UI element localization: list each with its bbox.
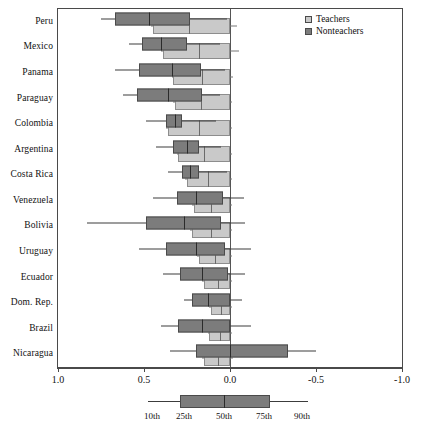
legend-swatch-teachers bbox=[305, 16, 312, 23]
box-iqr bbox=[142, 38, 187, 51]
boxplot-nonteachers bbox=[58, 60, 402, 86]
boxplot-nonteachers bbox=[58, 137, 402, 163]
x-axis-tick bbox=[316, 368, 317, 372]
box-iqr bbox=[192, 294, 230, 307]
category-label: Paraguay bbox=[0, 93, 53, 103]
x-axis-tick-label: 0.0 bbox=[224, 374, 237, 385]
percentile-key-box bbox=[180, 395, 270, 408]
x-axis-tick bbox=[402, 368, 403, 372]
x-axis-tick bbox=[230, 368, 231, 372]
median-line bbox=[161, 38, 162, 51]
median-line bbox=[187, 140, 188, 153]
median-line bbox=[202, 268, 203, 281]
percentile-label-25th: 25th bbox=[176, 411, 192, 421]
boxplot-row[interactable] bbox=[58, 162, 402, 188]
boxplot-row[interactable] bbox=[58, 111, 402, 137]
x-axis-tick bbox=[58, 368, 59, 372]
boxplot-nonteachers bbox=[58, 162, 402, 188]
boxplot-nonteachers bbox=[58, 188, 402, 214]
median-line bbox=[184, 217, 185, 230]
box-iqr bbox=[139, 63, 201, 76]
legend-label-teachers: Teachers bbox=[316, 13, 350, 25]
median-line bbox=[202, 319, 203, 332]
x-axis-tick-label: 1.0 bbox=[52, 374, 65, 385]
legend-item-teachers[interactable]: Teachers bbox=[305, 13, 363, 25]
box-iqr bbox=[115, 12, 191, 25]
legend: Teachers Nonteachers bbox=[305, 13, 363, 37]
boxplot-nonteachers bbox=[58, 341, 402, 367]
category-label: Ecuador bbox=[0, 272, 53, 282]
median-line bbox=[168, 89, 169, 102]
median-line bbox=[175, 115, 176, 128]
boxplot-nonteachers bbox=[58, 86, 402, 112]
boxplot-row[interactable] bbox=[58, 265, 402, 291]
x-axis-tick-label: 0.5 bbox=[138, 374, 151, 385]
boxplot-nonteachers bbox=[58, 290, 402, 316]
category-label: Venezuela bbox=[0, 195, 53, 205]
median-line bbox=[149, 12, 150, 25]
category-label: Mexico bbox=[0, 41, 53, 51]
boxplot-nonteachers bbox=[58, 316, 402, 342]
category-label: Peru bbox=[0, 16, 53, 26]
percentile-key: 10th 25th 50th 75th 90th bbox=[148, 392, 308, 426]
category-label: Bolivia bbox=[0, 220, 53, 230]
boxplot-row[interactable] bbox=[58, 290, 402, 316]
median-line bbox=[196, 191, 197, 204]
box-iqr bbox=[178, 319, 230, 332]
percentile-key-median bbox=[224, 395, 225, 408]
boxplot-row[interactable] bbox=[58, 86, 402, 112]
median-line bbox=[196, 242, 197, 255]
plot-area bbox=[57, 8, 403, 368]
percentile-label-50th: 50th bbox=[216, 411, 232, 421]
x-axis-tick-label: -0.5 bbox=[308, 374, 324, 385]
category-axis-labels: PeruMexicoPanamaParaguayColombiaArgentin… bbox=[0, 8, 53, 368]
median-line bbox=[230, 345, 231, 358]
percentile-label-90th: 90th bbox=[294, 411, 310, 421]
box-iqr bbox=[196, 345, 289, 358]
x-axis-tick-label: -1.0 bbox=[394, 374, 410, 385]
legend-label-nonteachers: Nonteachers bbox=[316, 25, 363, 37]
boxplot-row[interactable] bbox=[58, 60, 402, 86]
legend-swatch-nonteachers bbox=[305, 28, 312, 35]
boxplot-nonteachers bbox=[58, 35, 402, 61]
category-label: Dom. Rep. bbox=[0, 297, 53, 307]
median-line bbox=[172, 63, 173, 76]
x-axis-tick bbox=[144, 368, 145, 372]
category-label: Nicaragua bbox=[0, 348, 53, 358]
boxplot-row[interactable] bbox=[58, 137, 402, 163]
boxplot-nonteachers bbox=[58, 265, 402, 291]
category-label: Brazil bbox=[0, 323, 53, 333]
legend-item-nonteachers[interactable]: Nonteachers bbox=[305, 25, 363, 37]
boxplot-nonteachers bbox=[58, 239, 402, 265]
percentile-label-75th: 75th bbox=[256, 411, 272, 421]
boxplot-row[interactable] bbox=[58, 214, 402, 240]
boxplot-row[interactable] bbox=[58, 239, 402, 265]
percentile-label-10th: 10th bbox=[144, 411, 160, 421]
category-label: Argentina bbox=[0, 144, 53, 154]
median-line bbox=[190, 166, 191, 179]
boxplot-row[interactable] bbox=[58, 188, 402, 214]
category-label: Colombia bbox=[0, 118, 53, 128]
category-label: Costa Rica bbox=[0, 169, 53, 179]
box-iqr bbox=[137, 89, 202, 102]
boxplot-chart: PeruMexicoPanamaParaguayColombiaArgentin… bbox=[0, 0, 424, 431]
boxplot-nonteachers bbox=[58, 111, 402, 137]
category-label: Panama bbox=[0, 67, 53, 77]
boxplot-nonteachers bbox=[58, 214, 402, 240]
box-iqr bbox=[180, 268, 228, 281]
category-label: Uruguay bbox=[0, 246, 53, 256]
boxplot-row[interactable] bbox=[58, 35, 402, 61]
box-iqr bbox=[177, 191, 223, 204]
boxplot-row[interactable] bbox=[58, 316, 402, 342]
median-line bbox=[208, 294, 209, 307]
boxplot-row[interactable] bbox=[58, 341, 402, 367]
